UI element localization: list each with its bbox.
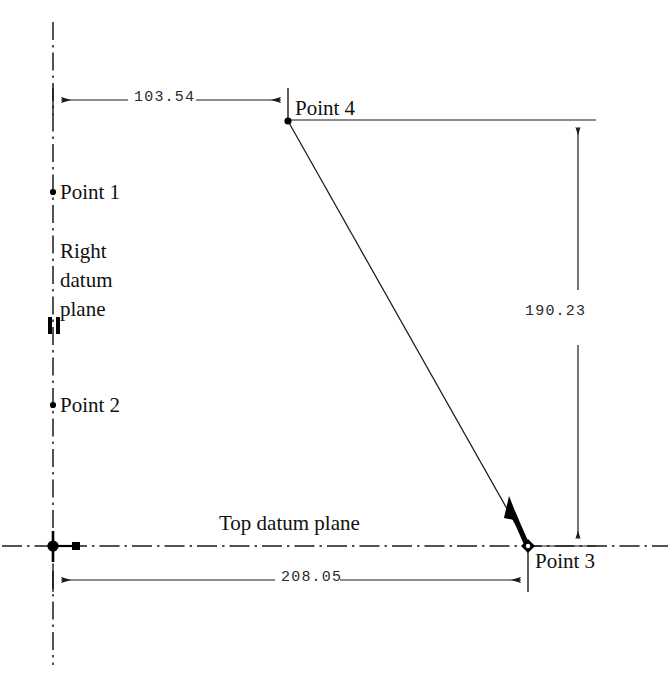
point-marker-point1 [50,189,56,195]
right-datum-plane-label-line2: datum [60,269,113,291]
dimension-value-208-05: 208.05 [281,570,342,586]
dimension-value-190-23: 190.23 [525,304,586,320]
right-datum-plane-label-line1: Right [60,240,107,262]
dimension-value-103-54: 103.54 [134,90,195,106]
sketch-edge-point4-point3 [288,121,528,546]
point-marker-point2 [50,402,56,408]
point-3-label: Point 3 [535,550,595,572]
point-marker-origin [47,531,80,562]
top-datum-plane-label: Top datum plane [219,512,360,534]
engineering-drawing-canvas: Point 1 Point 2 Point 3 Point 4 Right da… [0,0,672,692]
point-2-label: Point 2 [60,394,120,416]
point-4-label: Point 4 [295,97,355,119]
point-marker-point4 [284,117,291,124]
right-datum-plane-label-line3: plane [60,298,105,320]
direction-arrow-icon [504,496,527,545]
point-1-label: Point 1 [60,181,120,203]
datum-feature-symbol-icon [48,317,60,334]
dimension-190-23 [290,120,596,546]
